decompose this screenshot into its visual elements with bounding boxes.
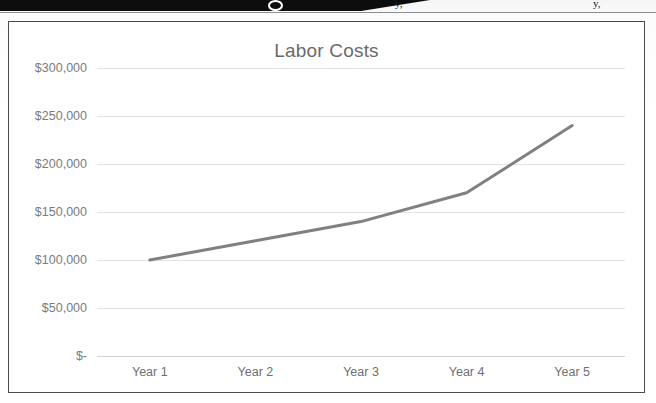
cropped-black-banner [0,0,430,11]
y-tick-label-0: $- [76,349,87,363]
y-tick-label-150000: $150,000 [35,205,87,219]
x-tick-label-1: Year 1 [132,365,168,379]
y-tick-label-300000: $300,000 [35,61,87,75]
line-series-labor-costs [150,126,572,260]
cropped-text-fragment-right: y, [593,0,601,9]
x-tick-label-5: Year 5 [554,365,590,379]
y-tick-label-250000: $250,000 [35,109,87,123]
cropped-text-fragment-left: y, [395,0,403,9]
y-tick-label-200000: $200,000 [35,157,87,171]
x-tick-label-2: Year 2 [238,365,274,379]
y-tick-label-50000: $50,000 [42,301,87,315]
chart-title: Labor Costs [9,40,644,62]
y-tick-label-100000: $100,000 [35,253,87,267]
horizontal-rule [0,12,656,13]
x-tick-label-3: Year 3 [343,365,379,379]
chart-container[interactable]: Labor Costs $-$50,000$100,000$150,000$20… [8,21,645,393]
gridline-0 [97,356,625,357]
data-series-svg [97,68,625,356]
x-tick-label-4: Year 4 [449,365,485,379]
scanned-page: y, y, Labor Costs $-$50,000$100,000$150,… [0,0,656,403]
plot-area[interactable]: $-$50,000$100,000$150,000$200,000$250,00… [97,68,625,356]
banner-circle-glyph [268,0,283,11]
